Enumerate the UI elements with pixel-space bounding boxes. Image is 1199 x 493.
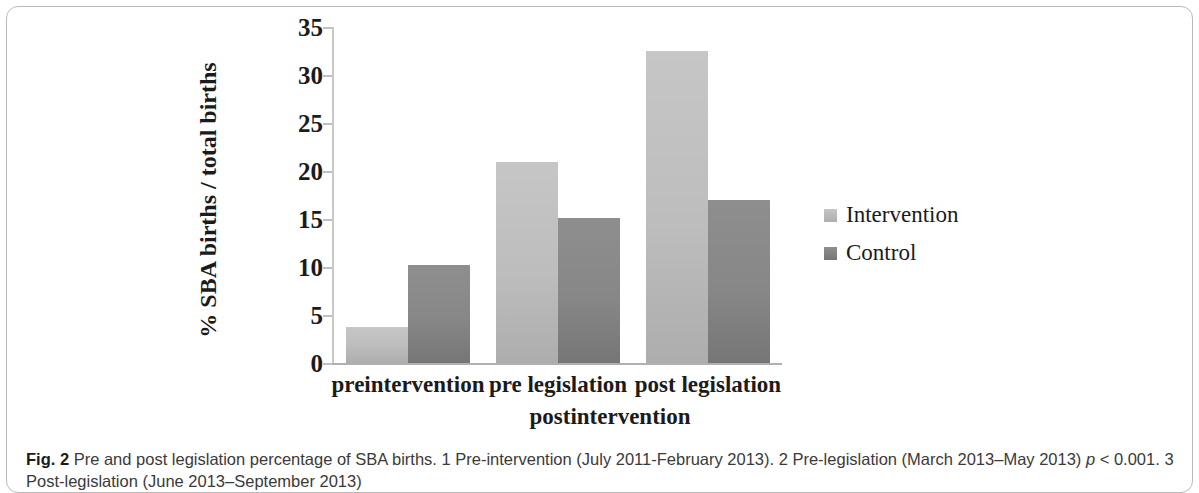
caption-figure-number: Fig. 2 [26,450,69,468]
bar-control-post-legislation [708,200,770,363]
bar-intervention-preintervention [346,327,408,363]
x-axis-line [332,363,782,365]
figure-caption: Fig. 2 Pre and post legislation percenta… [26,448,1176,492]
bar-control-preintervention [408,265,470,363]
bars-layer [0,0,1199,363]
legend-label: Control [846,240,916,266]
figure-container: 05101520253035 % SBA births / total birt… [0,0,1199,493]
legend-item-control[interactable]: Control [824,234,958,272]
legend-swatch-icon [824,209,837,222]
chart-legend: InterventionControl [824,196,958,272]
bar-intervention-pre-legislation [496,162,558,363]
x-axis-label-post-legislation: post legislation [608,372,808,398]
x-axis-title: postintervention [420,404,800,430]
bar-control-pre-legislation [558,218,620,363]
legend-swatch-icon [824,247,837,260]
bar-intervention-post-legislation [646,51,708,363]
chart-plot-area: 05101520253035 % SBA births / total birt… [0,0,1199,440]
legend-item-intervention[interactable]: Intervention [824,196,958,234]
y-axis-tick [323,363,332,365]
caption-body: Pre and post legislation percentage of S… [69,450,1086,468]
legend-label: Intervention [846,202,958,228]
caption-p-symbol: p [1086,450,1095,468]
